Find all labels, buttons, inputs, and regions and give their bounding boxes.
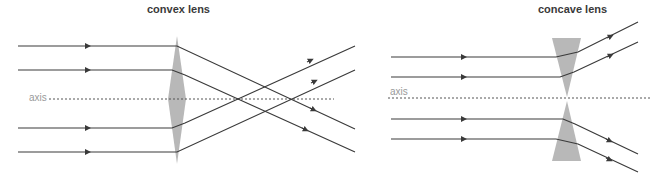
convex-lens-shape — [168, 36, 186, 164]
concave-lens-lower — [552, 101, 581, 161]
concave-diagram — [388, 22, 650, 172]
lens-ray-diagram — [0, 0, 668, 184]
concave-lens-upper — [552, 38, 581, 97]
convex-diagram — [18, 36, 355, 164]
